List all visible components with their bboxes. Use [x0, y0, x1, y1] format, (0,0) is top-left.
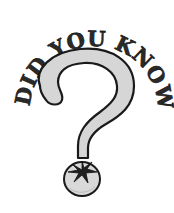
- question-mark-icon: [39, 49, 134, 158]
- did-you-know-illustration: DID YOU KNOW: [0, 0, 174, 213]
- tomato-icon: [64, 161, 100, 196]
- headline-arc-text: DID YOU KNOW: [10, 26, 174, 112]
- svg-text:DID YOU KNOW: DID YOU KNOW: [10, 26, 174, 112]
- headline-text: DID YOU KNOW: [10, 26, 174, 112]
